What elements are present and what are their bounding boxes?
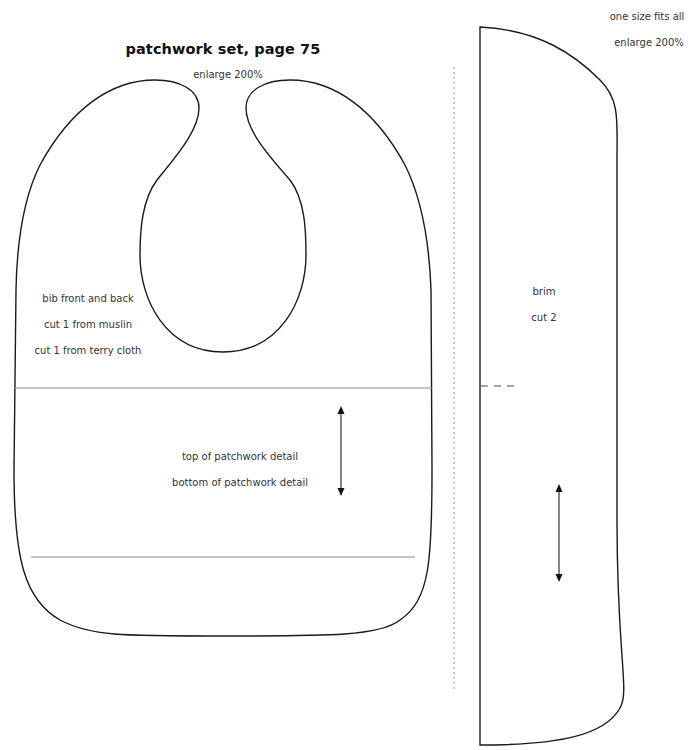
bib-label-muslin: cut 1 from muslin — [44, 319, 132, 330]
brim-label-cut: cut 2 — [531, 312, 556, 323]
bib-label-terry: cut 1 from terry cloth — [35, 345, 142, 356]
bib-grainline-arrow-icon — [338, 406, 345, 496]
patchwork-bottom-label: bottom of patchwork detail — [172, 477, 308, 488]
page-title: patchwork set, page 75 — [126, 41, 321, 57]
brim-label-name: brim — [533, 286, 556, 297]
bib-enlarge-note: enlarge 200% — [193, 69, 263, 80]
brim-enlarge-note: enlarge 200% — [614, 37, 684, 48]
brim-size-note: one size fits all — [610, 11, 685, 22]
patchwork-top-label: top of patchwork detail — [182, 451, 298, 462]
brim-outline — [480, 27, 624, 745]
bib-outline — [14, 80, 432, 636]
brim-grainline-arrow-icon — [556, 484, 563, 582]
bib-label-name: bib front and back — [42, 293, 133, 304]
pattern-diagram — [0, 0, 694, 750]
